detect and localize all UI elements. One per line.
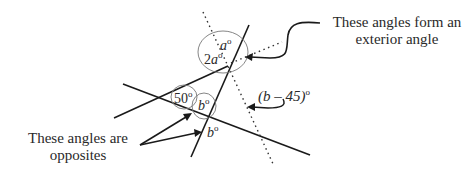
opposites-arrowhead-upper bbox=[183, 113, 192, 121]
opposites-annotation-line2: opposites bbox=[22, 147, 134, 164]
degree-mark: o bbox=[227, 36, 232, 46]
opposites-annotation-line1: These angles are bbox=[22, 130, 134, 147]
expr-b-minus-45: (b – 45) bbox=[258, 88, 306, 104]
dotted-extension bbox=[231, 42, 282, 63]
opposites-annotation: These angles are opposites bbox=[22, 130, 134, 164]
exterior-arrow bbox=[250, 22, 320, 58]
label-b-upper: bo bbox=[198, 96, 210, 114]
exterior-annotation-line2: exterior angle bbox=[324, 31, 470, 48]
var-b: b bbox=[207, 125, 214, 140]
b45-arrowhead bbox=[247, 103, 255, 111]
degree-mark: o bbox=[218, 50, 223, 60]
label-b-minus-45: (b – 45)o bbox=[258, 87, 310, 105]
label-2a: 2ao bbox=[204, 50, 223, 68]
label-50: 50o bbox=[174, 89, 193, 107]
value-50: 50 bbox=[174, 91, 188, 106]
var-b: b bbox=[198, 98, 205, 113]
degree-mark: o bbox=[214, 123, 219, 133]
exterior-annotation-line1: These angles form an bbox=[324, 14, 470, 31]
degree-mark: o bbox=[205, 96, 210, 106]
var-a: a bbox=[211, 52, 218, 67]
degree-mark: o bbox=[188, 89, 193, 99]
coef-2: 2 bbox=[204, 52, 211, 67]
exterior-annotation: These angles form an exterior angle bbox=[324, 14, 470, 48]
label-b-lower: bo bbox=[207, 123, 219, 141]
degree-mark: o bbox=[306, 87, 311, 97]
